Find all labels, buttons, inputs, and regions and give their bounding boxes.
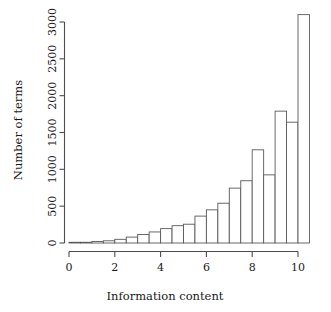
x-axis-tick-label: 2 xyxy=(111,261,118,274)
histogram-bar xyxy=(275,111,286,243)
y-axis-tick-label: 500 xyxy=(46,196,59,217)
bars-group xyxy=(69,15,309,243)
y-axis-tick-label: 0 xyxy=(46,240,59,247)
y-axis-tick-label: 1000 xyxy=(46,155,59,183)
histogram-bar xyxy=(80,242,91,243)
histogram-bar xyxy=(184,224,195,243)
histogram-bar xyxy=(92,242,103,243)
y-axis-tick-label: 2000 xyxy=(46,82,59,110)
y-axis-tick-labels: 050010001500200025003000 xyxy=(46,8,59,247)
histogram-bar xyxy=(149,232,160,243)
histogram-bar xyxy=(115,239,126,243)
chart-canvas: 0246810 050010001500200025003000 Informa… xyxy=(0,0,331,312)
histogram-bar xyxy=(161,229,172,243)
histogram-bar xyxy=(126,237,137,243)
x-axis-tick-labels: 0246810 xyxy=(66,261,306,274)
histogram-bar xyxy=(195,216,206,243)
x-axis-tick-label: 10 xyxy=(291,261,305,274)
histogram-bar xyxy=(298,15,309,243)
x-axis-tick-label: 6 xyxy=(203,261,210,274)
y-axis-tick-label: 1500 xyxy=(46,119,59,147)
x-axis-title: Information content xyxy=(107,289,224,303)
x-axis-tick-label: 8 xyxy=(249,261,256,274)
histogram-bar xyxy=(138,235,149,243)
histogram-bar xyxy=(252,150,263,243)
histogram-bar xyxy=(103,241,114,243)
y-axis-tick-label: 2500 xyxy=(46,45,59,73)
histogram-bar xyxy=(287,122,298,243)
histogram-bar xyxy=(229,188,240,243)
histogram-bar xyxy=(69,242,80,243)
histogram-bar xyxy=(172,226,183,243)
x-axis-tick-label: 4 xyxy=(157,261,164,274)
y-axis-title: Number of terms xyxy=(11,80,25,180)
histogram-bar xyxy=(206,210,217,243)
histogram-bar xyxy=(241,181,252,243)
histogram-chart: 0246810 050010001500200025003000 Informa… xyxy=(0,0,331,312)
histogram-bar xyxy=(218,203,229,243)
histogram-bar xyxy=(264,175,275,243)
y-axis-tick-label: 3000 xyxy=(46,8,59,36)
x-axis-tick-label: 0 xyxy=(66,261,73,274)
